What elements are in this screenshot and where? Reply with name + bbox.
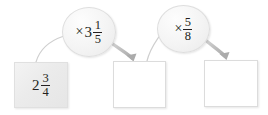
operation-bubble-1[interactable]: × 3 1 5 — [62, 7, 116, 57]
operation-2-numerator: 5 — [184, 16, 192, 29]
multiplication-sign-icon-2: × — [175, 22, 183, 36]
input-numerator: 3 — [41, 72, 49, 85]
input-mixed-number: 2 3 4 — [32, 72, 50, 99]
input-denominator: 4 — [41, 86, 49, 99]
operation-1-numerator: 1 — [94, 19, 102, 32]
connector-result-1-to-operator-2 — [147, 35, 160, 61]
input-whole-part: 2 — [32, 78, 40, 93]
operation-1-fraction: 1 5 — [93, 19, 102, 46]
operation-2-fraction: 5 8 — [183, 16, 192, 43]
operation-bubble-2[interactable]: × 5 8 — [157, 5, 210, 53]
multiplication-sign-icon: × — [76, 25, 84, 39]
connector-operator-2-to-result-2 — [204, 39, 225, 56]
function-machine-diagram: 2 3 4 × 3 1 5 × 5 — [0, 0, 268, 115]
input-value-box[interactable]: 2 3 4 — [14, 62, 68, 108]
answer-box-1[interactable] — [113, 61, 166, 108]
operation-2-expression: × 5 8 — [175, 16, 193, 43]
operation-1-denominator: 5 — [94, 33, 102, 46]
operation-1-expression: × 3 1 5 — [76, 19, 103, 46]
operation-1-whole-part: 3 — [84, 25, 92, 40]
operation-2-denominator: 8 — [184, 30, 192, 43]
connector-input-to-operator-1 — [36, 36, 64, 62]
answer-box-2[interactable] — [204, 60, 258, 107]
input-fraction: 3 4 — [41, 72, 50, 99]
